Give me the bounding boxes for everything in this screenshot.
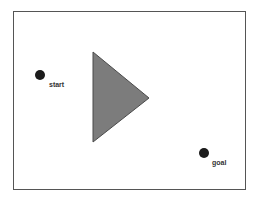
start-point-icon [35, 70, 45, 80]
goal-point-icon [199, 148, 209, 158]
goal-label: goal [212, 159, 226, 167]
diagram-canvas: start goal [0, 0, 257, 204]
start-label: start [49, 81, 65, 88]
